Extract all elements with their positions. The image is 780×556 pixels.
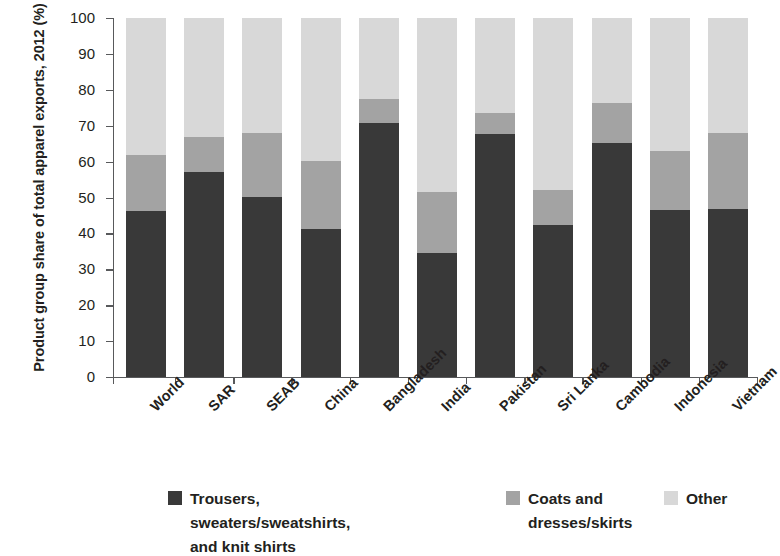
y-tick-mark: 10 xyxy=(106,341,113,342)
legend-swatch-icon-trousers xyxy=(168,491,182,505)
y-tick-label: 100 xyxy=(70,9,95,26)
bar-segment xyxy=(708,133,748,209)
y-axis-line xyxy=(113,18,114,377)
bar-segment xyxy=(708,18,748,133)
bar-segment xyxy=(126,211,166,377)
x-category-label-sar: SAR xyxy=(205,381,238,414)
y-tick-label: 10 xyxy=(78,332,95,349)
y-tick-label: 50 xyxy=(78,189,95,206)
bar-segment xyxy=(533,225,573,377)
bar-segment xyxy=(301,161,341,229)
bar-segment xyxy=(650,18,690,151)
bar-segment xyxy=(475,18,515,113)
legend-label-other: Other xyxy=(686,487,727,511)
bar-segment xyxy=(184,137,224,171)
y-tick-mark: 90 xyxy=(106,54,113,55)
y-tick-label: 0 xyxy=(87,368,95,385)
x-tick-mark-origin xyxy=(113,377,114,384)
y-tick-label: 80 xyxy=(78,81,95,98)
y-tick-mark: 0 xyxy=(106,377,113,378)
legend-label-trousers: Trousers, sweaters/sweatshirts, and knit… xyxy=(190,487,350,556)
y-tick-label: 90 xyxy=(78,45,95,62)
bar-segment xyxy=(475,113,515,134)
chart-legend: Trousers, sweaters/sweatshirts, and knit… xyxy=(168,487,758,541)
bar-segment xyxy=(359,18,399,99)
bar-segment xyxy=(475,134,515,377)
bar-segment xyxy=(533,190,573,224)
y-tick-mark: 100 xyxy=(106,18,113,19)
bar-segment xyxy=(592,103,632,142)
bar-segment xyxy=(184,18,224,137)
y-tick-mark: 50 xyxy=(106,198,113,199)
y-tick-mark: 30 xyxy=(106,269,113,270)
bar-segment xyxy=(533,18,573,190)
bar-segment xyxy=(417,192,457,253)
bar-segment xyxy=(301,229,341,377)
bar-segment xyxy=(708,209,748,377)
bar-segment xyxy=(359,123,399,377)
y-tick-mark: 40 xyxy=(106,233,113,234)
x-category-label-india: India xyxy=(438,379,473,414)
legend-swatch-icon-other xyxy=(664,491,678,505)
y-tick-mark: 20 xyxy=(106,305,113,306)
y-tick-label: 40 xyxy=(78,225,95,242)
bar-segment xyxy=(650,210,690,377)
bar-segment xyxy=(242,133,282,197)
bar-segment xyxy=(242,197,282,377)
y-tick-mark: 80 xyxy=(106,90,113,91)
bar-segment xyxy=(417,18,457,192)
bar-segment xyxy=(126,155,166,211)
bar-segment xyxy=(650,151,690,210)
x-category-label-china: China xyxy=(321,375,361,415)
bar-segment xyxy=(126,18,166,155)
bar-segment xyxy=(592,143,632,377)
bar-segment xyxy=(242,18,282,133)
y-tick-label: 70 xyxy=(78,117,95,134)
x-tick-mark xyxy=(233,377,234,384)
bar-segment xyxy=(301,18,341,161)
bar-segment xyxy=(359,99,399,123)
y-tick-label: 60 xyxy=(78,153,95,170)
bar-segment xyxy=(184,172,224,377)
legend-label-coats: Coats and dresses/skirts xyxy=(528,487,632,535)
y-tick-mark: 70 xyxy=(106,126,113,127)
x-category-label-seab: SEAB xyxy=(263,375,303,415)
y-tick-mark: 60 xyxy=(106,162,113,163)
legend-swatch-icon-coats xyxy=(506,491,520,505)
y-tick-label: 20 xyxy=(78,296,95,313)
bar-segment xyxy=(592,18,632,103)
plot-area: 0102030405060708090100 WorldSARSEABChina… xyxy=(113,18,758,377)
y-tick-label: 30 xyxy=(78,260,95,277)
x-axis-line xyxy=(113,377,758,378)
x-category-label-world: World xyxy=(147,374,187,414)
y-axis-title: Product group share of total apparel exp… xyxy=(30,3,49,373)
